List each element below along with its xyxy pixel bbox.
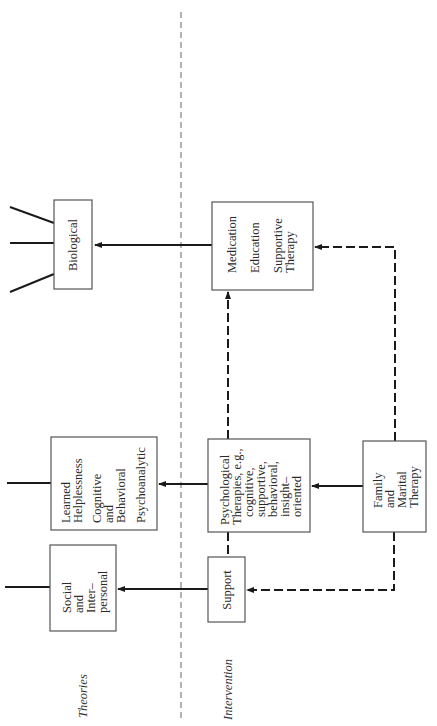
- section-label-intervention: Intervention: [221, 659, 235, 721]
- psychoanalytic-label: Psychoanalytic: [134, 447, 148, 523]
- therapy-label: Therapy: [283, 231, 297, 273]
- behavioral-label: Behavioral: [114, 468, 128, 523]
- box-learned-cognitive-psychoanalytic: Learned Helplessness Cognitive and Behav…: [51, 437, 157, 530]
- box-medication-education-supportive: Medication Education Supportive Therapy: [212, 202, 313, 290]
- biological-branch-upper: [10, 207, 54, 223]
- section-label-theories: Theories: [76, 674, 90, 718]
- education-label: Education: [248, 222, 262, 273]
- support-label: Support: [220, 570, 234, 610]
- box-support: Support: [208, 557, 245, 622]
- biological-label: Biological: [66, 218, 80, 271]
- therapy-label: Therapy: [407, 466, 421, 508]
- oriented-label: oriented: [290, 475, 304, 517]
- helplessness-label: Helplessness: [71, 458, 85, 523]
- dashed-arrow-family-to-medication: [315, 247, 395, 441]
- svg-text:Support: Support: [220, 570, 234, 610]
- medication-label: Medication: [225, 215, 239, 273]
- personal-label: personal: [96, 570, 110, 613]
- biological-branch-lower: [10, 274, 54, 292]
- dashed-arrow-family-to-support: [247, 532, 394, 590]
- box-family-marital-therapy: Family and Marital Therapy: [363, 441, 426, 532]
- svg-text:Family and Marital: Family and Marital Therapy: [371, 466, 421, 508]
- box-biological: Biological: [54, 200, 92, 289]
- box-psychological-therapies: Psychological Therapies, e.g., cognitive…: [208, 439, 310, 532]
- diagram-canvas: Biological Learned Helplessness Cognitiv…: [0, 0, 437, 726]
- box-social-interpersonal: Social and Inter– personal: [50, 545, 116, 631]
- svg-text:Biological: Biological: [66, 218, 80, 271]
